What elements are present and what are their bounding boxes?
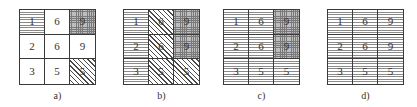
panel-label-a: a) bbox=[19, 90, 96, 101]
cell-value: 5 bbox=[388, 66, 394, 77]
cell-value: 2 bbox=[337, 41, 343, 52]
panel-label-d: d) bbox=[327, 90, 404, 101]
grid-cell: 6 bbox=[149, 10, 174, 35]
cell-value: 3 bbox=[133, 66, 139, 77]
cell-value: 1 bbox=[29, 16, 35, 27]
panel-c: 169269355 c) bbox=[223, 9, 300, 85]
grid-cell: 9 bbox=[70, 35, 95, 60]
cell-value: 5 bbox=[54, 66, 60, 77]
grid-cell: 9 bbox=[378, 10, 403, 35]
grid-cell: 5 bbox=[149, 59, 174, 84]
cell-value: 9 bbox=[388, 41, 394, 52]
cell-value: 6 bbox=[258, 16, 264, 27]
cell-value: 3 bbox=[233, 66, 239, 77]
cell-value: 2 bbox=[29, 41, 35, 52]
cell-value: 9 bbox=[184, 41, 190, 52]
grid-cell: 3 bbox=[224, 59, 249, 84]
grid-cell: 3 bbox=[328, 59, 353, 84]
grid-cell: 6 bbox=[45, 35, 70, 60]
grid-cell: 6 bbox=[45, 10, 70, 35]
panel-a: 169269355 a) bbox=[19, 9, 96, 85]
grid-cell: 2 bbox=[124, 35, 149, 60]
grid-b: 169269355 bbox=[123, 9, 200, 85]
cell-value: 5 bbox=[184, 66, 190, 77]
grid-cell: 9 bbox=[378, 35, 403, 60]
grid-cell: 5 bbox=[274, 59, 299, 84]
grid-cell: 1 bbox=[124, 10, 149, 35]
grid-cell: 1 bbox=[328, 10, 353, 35]
panel-d: 169269355 d) bbox=[327, 9, 404, 85]
grid-cell: 5 bbox=[249, 59, 274, 84]
grid-cell: 6 bbox=[353, 10, 378, 35]
grid-cell: 5 bbox=[70, 59, 95, 84]
cell-value: 6 bbox=[54, 41, 60, 52]
cell-value: 5 bbox=[258, 66, 264, 77]
cell-value: 1 bbox=[133, 16, 139, 27]
cell-value: 2 bbox=[133, 41, 139, 52]
cell-value: 6 bbox=[54, 16, 60, 27]
cell-value: 5 bbox=[80, 66, 86, 77]
grid-a: 169269355 bbox=[19, 9, 96, 85]
cell-value: 9 bbox=[284, 16, 290, 27]
grid-cell: 9 bbox=[70, 10, 95, 35]
grid-cell: 9 bbox=[274, 10, 299, 35]
cell-value: 3 bbox=[337, 66, 343, 77]
grid-cell: 9 bbox=[174, 10, 199, 35]
grid-cell: 5 bbox=[45, 59, 70, 84]
grid-cell: 9 bbox=[274, 35, 299, 60]
cell-value: 5 bbox=[284, 66, 290, 77]
cell-value: 6 bbox=[158, 41, 164, 52]
grid-cell: 2 bbox=[328, 35, 353, 60]
grid-cell: 9 bbox=[174, 35, 199, 60]
cell-value: 6 bbox=[362, 16, 368, 27]
grid-cell: 6 bbox=[249, 10, 274, 35]
grid-cell: 1 bbox=[224, 10, 249, 35]
grid-cell: 1 bbox=[20, 10, 45, 35]
grid-cell: 2 bbox=[20, 35, 45, 60]
cell-value: 9 bbox=[284, 41, 290, 52]
cell-value: 6 bbox=[158, 16, 164, 27]
cell-value: 2 bbox=[233, 41, 239, 52]
cell-value: 3 bbox=[29, 66, 35, 77]
grid-cell: 3 bbox=[124, 59, 149, 84]
cell-value: 1 bbox=[233, 16, 239, 27]
grid-cell: 5 bbox=[378, 59, 403, 84]
panel-b: 169269355 b) bbox=[123, 9, 200, 85]
cell-value: 9 bbox=[80, 16, 86, 27]
cell-value: 9 bbox=[80, 41, 86, 52]
cell-value: 1 bbox=[337, 16, 343, 27]
panel-label-c: c) bbox=[223, 90, 300, 101]
cell-value: 6 bbox=[258, 41, 264, 52]
cell-value: 5 bbox=[158, 66, 164, 77]
grid-cell: 6 bbox=[249, 35, 274, 60]
grid-d: 169269355 bbox=[327, 9, 404, 85]
grid-cell: 6 bbox=[149, 35, 174, 60]
grid-cell: 5 bbox=[353, 59, 378, 84]
cell-value: 6 bbox=[362, 41, 368, 52]
grid-c: 169269355 bbox=[223, 9, 300, 85]
grid-cell: 5 bbox=[174, 59, 199, 84]
grid-cell: 3 bbox=[20, 59, 45, 84]
cell-value: 5 bbox=[362, 66, 368, 77]
cell-value: 9 bbox=[184, 16, 190, 27]
grid-cell: 6 bbox=[353, 35, 378, 60]
panel-label-b: b) bbox=[123, 90, 200, 101]
grid-cell: 2 bbox=[224, 35, 249, 60]
cell-value: 9 bbox=[388, 16, 394, 27]
